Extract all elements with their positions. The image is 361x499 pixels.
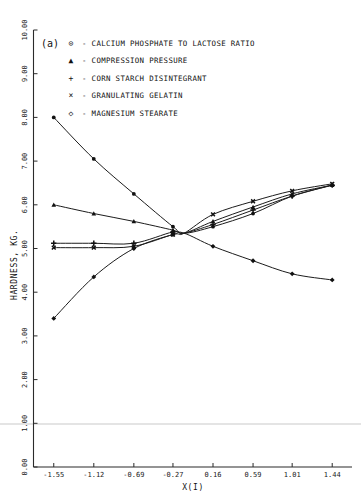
legend-entry-label: - CORN STARCH DISINTEGRANT xyxy=(82,74,207,83)
x-tick-label: 0.16 xyxy=(205,471,222,479)
data-point-plus xyxy=(51,241,56,246)
x-tick-label: 1.01 xyxy=(284,471,301,479)
y-axis-ticks: 0.001.002.003.004.005.006.007.008.009.00… xyxy=(21,19,38,475)
chart-svg: 0.001.002.003.004.005.006.007.008.009.00… xyxy=(0,0,361,499)
data-curves xyxy=(54,117,332,318)
data-point-circle-dot xyxy=(92,157,96,161)
legend-entry-label: - CALCIUM PHOSPHATE TO LACTOSE RATIO xyxy=(82,39,255,48)
data-point-circle-dot xyxy=(52,116,56,120)
x-axis-title: X(I) xyxy=(182,483,204,492)
y-tick-label: 4.00 xyxy=(21,284,29,301)
data-point-diamond xyxy=(211,244,216,249)
data-point-diamond xyxy=(251,258,256,263)
legend-entry-label: - COMPRESSION PRESSURE xyxy=(82,56,188,65)
legend-entry-label: - MAGNESIUM STEARATE xyxy=(82,109,178,118)
curve-line xyxy=(54,184,332,248)
x-tick-label: -1.55 xyxy=(43,471,64,479)
y-tick-label: 7.00 xyxy=(21,153,29,170)
x-tick-label: -0.69 xyxy=(123,471,144,479)
times-icon: × xyxy=(69,91,74,100)
y-tick-label: 1.00 xyxy=(21,415,29,432)
data-markers xyxy=(51,116,335,321)
x-axis-ticks: -1.55-1.12-0.69-0.270.160.591.011.44 xyxy=(43,463,340,479)
x-tick-label: 0.59 xyxy=(245,471,262,479)
x-tick-label: -1.12 xyxy=(83,471,104,479)
triangle-icon: ▲ xyxy=(69,56,74,65)
y-tick-label: 10.00 xyxy=(21,19,29,40)
data-point-diamond xyxy=(330,278,335,283)
data-point-plus xyxy=(91,241,96,246)
data-point-times xyxy=(211,213,215,217)
y-axis-title: HARDNESS, KG. xyxy=(10,230,19,300)
circle-dot-icon: ⊙ xyxy=(69,39,74,48)
plus-icon: + xyxy=(69,74,74,83)
y-tick-label: 5.00 xyxy=(21,240,29,257)
data-point-circle-dot xyxy=(132,192,136,196)
curve-line xyxy=(54,117,332,233)
panel-label: (a) xyxy=(41,38,59,49)
data-point-triangle xyxy=(51,203,56,207)
y-tick-label: 0.00 xyxy=(21,459,29,476)
y-tick-label: 8.00 xyxy=(21,109,29,126)
legend: ⊙- CALCIUM PHOSPHATE TO LACTOSE RATIO▲- … xyxy=(69,39,255,118)
data-point-diamond xyxy=(290,271,295,276)
x-tick-label: -0.27 xyxy=(162,471,183,479)
legend-entry-label: - GRANULATING GELATIN xyxy=(82,91,183,100)
diamond-icon: ◇ xyxy=(69,109,74,118)
y-tick-label: 6.00 xyxy=(21,196,29,213)
curve-line xyxy=(54,232,332,318)
y-tick-label: 9.00 xyxy=(21,65,29,82)
figure-panel-a: 0.001.002.003.004.005.006.007.008.009.00… xyxy=(0,0,361,499)
x-tick-label: 1.44 xyxy=(324,471,341,479)
y-tick-label: 3.00 xyxy=(21,327,29,344)
y-tick-label: 2.00 xyxy=(21,371,29,388)
